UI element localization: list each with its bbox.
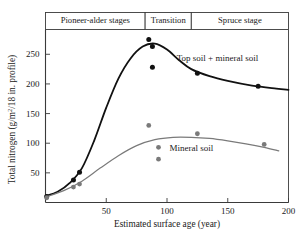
data-point-mineral-soil-5 <box>156 157 161 162</box>
y-tick-label-100: 100 <box>26 138 40 148</box>
data-point-top-soil-mineral-soil-3 <box>146 37 151 42</box>
series-annotation-top-soil-mineral-soil: Top soil + mineral soil <box>177 53 259 63</box>
x-tick-label-50: 50 <box>102 206 112 216</box>
y-tick-label-150: 150 <box>26 109 40 119</box>
data-point-mineral-soil-4 <box>156 145 161 150</box>
x-tick-label-200: 200 <box>282 206 296 216</box>
y-tick-label-50: 50 <box>31 168 41 178</box>
y-tick-label-200: 200 <box>26 79 40 89</box>
stage-band-label-1: Transition <box>151 15 187 25</box>
x-tick-label-100: 100 <box>160 206 174 216</box>
data-point-top-soil-mineral-soil-7 <box>256 84 261 89</box>
svg-text:Total nitrogen (g/m2/18 in. pr: Total nitrogen (g/m2/18 in. profile) <box>6 55 18 184</box>
data-point-top-soil-mineral-soil-6 <box>195 71 200 76</box>
stage-band-label-2: Spruce stage <box>218 15 262 25</box>
y-tick-label-250: 250 <box>26 49 40 59</box>
data-point-mineral-soil-7 <box>262 142 267 147</box>
nitrogen-succession-chart: Pioneer-alder stagesTransitionSpruce sta… <box>0 0 301 236</box>
data-point-top-soil-mineral-soil-1 <box>71 177 76 182</box>
data-point-top-soil-mineral-soil-4 <box>150 44 155 49</box>
x-tick-label-150: 150 <box>221 206 235 216</box>
chart-canvas: Pioneer-alder stagesTransitionSpruce sta… <box>0 0 301 236</box>
data-point-mineral-soil-3 <box>146 123 151 128</box>
data-point-mineral-soil-1 <box>71 185 76 190</box>
data-point-top-soil-mineral-soil-5 <box>150 65 155 70</box>
series-curve-mineral-soil <box>46 137 279 197</box>
data-point-top-soil-mineral-soil-2 <box>77 170 82 175</box>
y-axis-title: Total nitrogen (g/m2/18 in. profile) <box>6 55 18 184</box>
data-point-mineral-soil-6 <box>195 131 200 136</box>
stage-band-label-0: Pioneer-alder stages <box>61 15 131 25</box>
series-annotation-mineral-soil: Mineral soil <box>169 143 213 153</box>
data-point-mineral-soil-0 <box>44 195 49 200</box>
x-axis-title: Estimated surface age (year) <box>114 219 220 230</box>
series-curve-top-soil-mineral-soil <box>46 43 289 195</box>
data-point-mineral-soil-2 <box>77 182 82 187</box>
